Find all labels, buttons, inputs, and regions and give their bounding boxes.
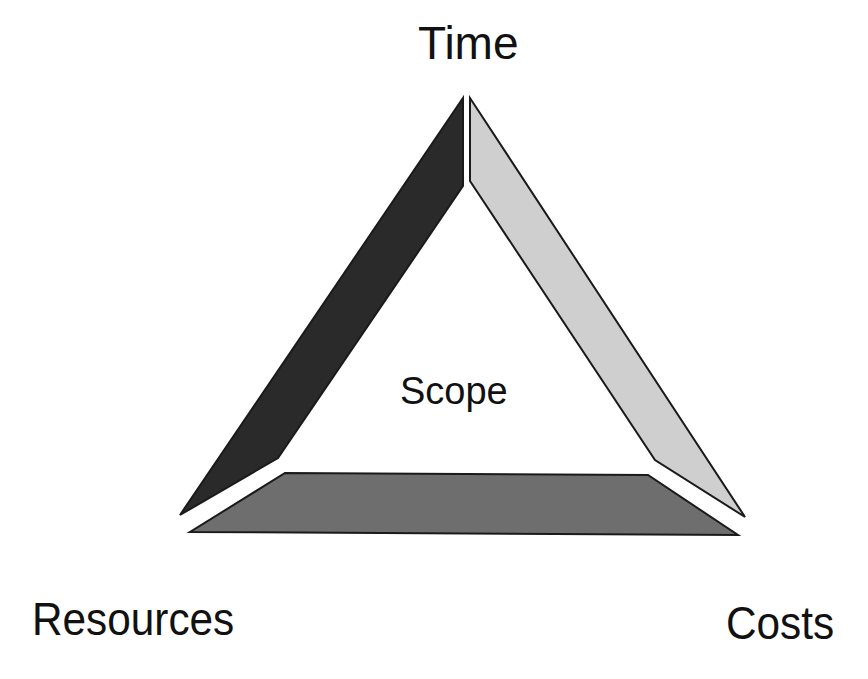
- right-side-bar: [470, 98, 745, 517]
- costs-label: Costs: [726, 600, 834, 646]
- triangle-diagram: [0, 0, 868, 679]
- left-side-bar: [180, 98, 463, 515]
- time-label: Time: [418, 20, 519, 66]
- bottom-side-bar: [190, 473, 738, 535]
- resources-label: Resources: [32, 596, 234, 642]
- scope-label: Scope: [400, 372, 508, 410]
